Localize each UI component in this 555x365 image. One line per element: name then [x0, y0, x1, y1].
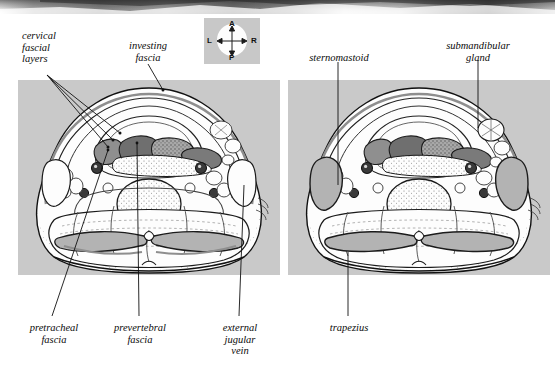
scan-edge-artifact	[0, 0, 555, 18]
compass-right-label: R	[251, 37, 257, 45]
label-cervical-fascial-layers: cervical fascial layers	[22, 30, 92, 65]
compass-left-label: L	[207, 37, 212, 45]
compass-anterior-label: A	[229, 20, 235, 28]
label-sternomastoid: sternomastoid	[293, 52, 385, 64]
right-section-artwork	[288, 80, 550, 275]
label-submandibular-gland: submandibular gland	[424, 40, 532, 63]
label-external-jugular-vein: external jugular vein	[204, 322, 276, 357]
panel-left-cross-section	[18, 80, 280, 275]
panel-right-cross-section	[288, 80, 550, 275]
label-investing-fascia: investing fascia	[108, 40, 188, 63]
orientation-compass: A P L R	[204, 18, 260, 64]
label-prevertebral-fascia: prevertebral fascia	[100, 322, 180, 345]
compass-posterior-label: P	[229, 54, 234, 62]
label-pretracheal-fascia: pretracheal fascia	[14, 322, 94, 345]
label-trapezius: trapezius	[316, 322, 382, 334]
left-section-artwork	[18, 80, 280, 275]
figure-page: A P L R	[0, 0, 555, 365]
